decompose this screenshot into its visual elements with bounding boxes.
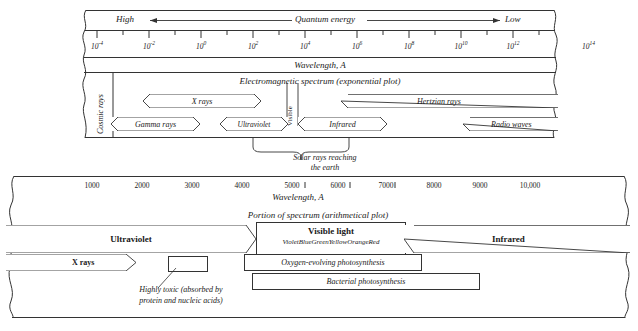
arithmetical-plot-panel: 1000 2000 3000 4000 5000 6000 7000 8000 … <box>8 176 630 318</box>
top-axis-caption: Wavelength, A <box>82 60 558 70</box>
toxic-note-line2: protein and nucleic acids) <box>96 296 266 305</box>
tick-label-nm-4: 5000 <box>270 181 314 190</box>
tick-label-nm-6: 7000 <box>364 181 408 190</box>
color-orange: Orange <box>347 238 368 246</box>
tick-label-exp-7: 1010 <box>441 40 481 51</box>
portion-of-spectrum-title: Portion of spectrum (arithmetical plot) <box>168 210 468 220</box>
oxygen-photosynthesis-label: Oxygen-evolving photosynthesis <box>281 258 384 267</box>
region-visible-light[interactable]: Visible light Violet Blue Green Yellow O… <box>256 222 406 258</box>
tick-label-exp-5: 106 <box>337 40 377 51</box>
color-violet: Violet <box>283 238 299 246</box>
tick-label-nm-5: 6000 <box>316 181 360 190</box>
tick-label-exp-2: 100 <box>181 40 221 51</box>
region-infrared[interactable]: Infrared <box>404 225 630 253</box>
visible-light-label: Visible light <box>257 226 405 236</box>
tick-label-nm-7: 8000 <box>412 181 456 190</box>
cosmic-rays-label: Cosmic rays <box>96 80 105 134</box>
band-x-rays[interactable]: X rays <box>143 94 261 108</box>
tick-label-nm-1: 2000 <box>120 181 164 190</box>
tick-label-nm-0: 1000 <box>70 181 114 190</box>
tick-label-exp-3: 102 <box>233 40 273 51</box>
tick-label-exp-4: 104 <box>285 40 325 51</box>
region-ultraviolet[interactable]: Ultraviolet <box>6 225 256 253</box>
solar-rays-caption-line2: the earth <box>245 163 405 172</box>
bottom-axis-caption: Wavelength, A <box>168 192 428 202</box>
color-blue: Blue <box>299 238 312 246</box>
color-red: Red <box>369 238 380 246</box>
tick-label-nm-9: 10,000 <box>502 181 558 190</box>
tick-label-exp-0: 10-4 <box>77 40 117 51</box>
band-infrared[interactable]: Infrared <box>298 117 387 131</box>
band-x-rays-bottom[interactable]: X rays <box>6 254 136 271</box>
band-gamma-rays[interactable]: Gamma rays <box>111 117 200 131</box>
band-ultraviolet[interactable]: Ultraviolet <box>220 117 288 131</box>
solar-rays-connector: Solar rays reaching the earth <box>245 138 405 174</box>
bacterial-photosynthesis-label: Bacterial photosynthesis <box>327 277 406 286</box>
band-radio-waves[interactable]: Radio waves <box>463 117 558 131</box>
quantum-energy-low-label: Low <box>505 14 521 24</box>
tick-label-exp-9: 1014 <box>519 40 595 51</box>
visible-color-names: Violet Blue Green Yellow Orange Red <box>257 238 405 246</box>
quantum-energy-center-label: Quantum energy <box>295 14 355 24</box>
bar-bacterial-photosynthesis[interactable]: Bacterial photosynthesis <box>252 273 480 290</box>
toxic-note-line1: Highly toxic (absorbed by <box>96 285 266 294</box>
exponential-plot-panel: High Quantum energy Low 10-4 10-2 100 10… <box>82 10 558 138</box>
tick-label-exp-6: 108 <box>389 40 429 51</box>
tick-label-nm-2: 3000 <box>170 181 214 190</box>
color-yellow: Yellow <box>329 238 347 246</box>
band-hertzian-rays[interactable]: Hertzian rays <box>341 94 558 108</box>
electromagnetic-spectrum-title: Electromagnetic spectrum (exponential pl… <box>82 76 558 86</box>
quantum-energy-high-label: High <box>116 14 134 24</box>
tick-label-nm-3: 4000 <box>220 181 264 190</box>
bar-oxygen-evolving-photosynthesis[interactable]: Oxygen-evolving photosynthesis <box>244 254 422 271</box>
tick-label-nm-8: 9000 <box>458 181 502 190</box>
tick-label-exp-1: 10-2 <box>129 40 169 51</box>
solar-rays-caption-line1: Solar rays reaching <box>245 153 405 162</box>
color-green: Green <box>312 238 329 246</box>
